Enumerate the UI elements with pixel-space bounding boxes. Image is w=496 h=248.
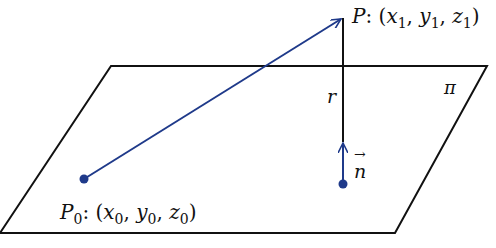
point-p0-label: P0: (x0, y0, z0) (60, 200, 196, 227)
point-p0-dot (80, 175, 89, 184)
normal-base-dot (339, 180, 348, 189)
plane-pi-label: π (444, 77, 456, 98)
vector-p0-to-p (84, 19, 341, 179)
point-p-label: P: (x1, y1, z1) (352, 4, 480, 31)
segment-r-label: r (327, 85, 336, 107)
arrow-over-icon: → (354, 146, 366, 162)
normal-n-label: → n (354, 160, 366, 182)
